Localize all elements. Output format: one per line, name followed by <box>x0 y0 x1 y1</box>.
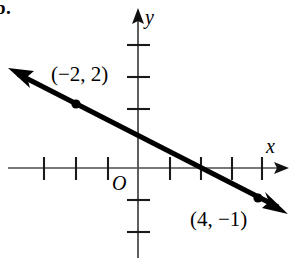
y-axis-label: y <box>145 7 154 27</box>
figure-container: b. y x O (−2, 2) (4, −1) <box>0 0 293 261</box>
point-label-4-negative1: (4, −1) <box>190 209 247 230</box>
item-letter-label: b. <box>0 0 11 17</box>
x-axis-group <box>8 157 289 180</box>
x-axis-label: x <box>266 136 275 156</box>
plotted-line <box>18 74 278 207</box>
point-label-negative2-2: (−2, 2) <box>51 64 108 85</box>
plotted-line-group <box>8 68 288 214</box>
data-point-marker-a <box>71 99 80 108</box>
origin-label: O <box>112 173 126 193</box>
coordinate-plane-graph <box>0 0 293 261</box>
data-point-marker-b <box>253 193 262 202</box>
